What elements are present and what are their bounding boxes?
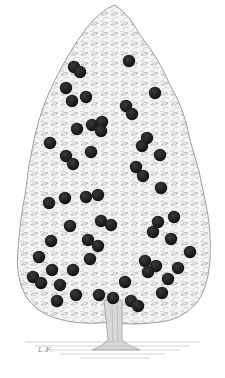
fruit <box>105 219 117 231</box>
fruit <box>136 140 148 152</box>
fruit <box>80 191 92 203</box>
fruit <box>123 55 135 67</box>
fruit <box>66 95 78 107</box>
fruit <box>184 246 196 258</box>
fruit <box>44 137 56 149</box>
fruit <box>119 276 131 288</box>
fruit <box>35 277 47 289</box>
tree-canopy <box>17 5 210 324</box>
fruit <box>70 289 82 301</box>
fruit <box>45 235 57 247</box>
fruit <box>168 211 180 223</box>
fruit <box>147 226 159 238</box>
fruit <box>51 295 63 307</box>
fruit <box>67 158 79 170</box>
fruit <box>33 251 45 263</box>
fruit <box>92 240 104 252</box>
fruit <box>126 108 138 120</box>
fruit <box>162 273 174 285</box>
fruit <box>155 182 167 194</box>
fruit <box>156 287 168 299</box>
fruit <box>139 255 151 267</box>
tree-engraving <box>0 0 225 378</box>
fruit <box>74 66 86 78</box>
fruit <box>85 146 97 158</box>
fruit <box>67 264 79 276</box>
fruit <box>154 149 166 161</box>
fruit <box>84 253 96 265</box>
fruit <box>43 197 55 209</box>
fruit <box>54 279 66 291</box>
artist-signature: L.F. <box>38 346 53 354</box>
fruit <box>60 82 72 94</box>
fruit <box>93 289 105 301</box>
fruit <box>142 266 154 278</box>
fruit <box>172 262 184 274</box>
fruit <box>149 87 161 99</box>
fruit <box>165 233 177 245</box>
fruit <box>132 300 144 312</box>
fruit <box>92 189 104 201</box>
fruit <box>71 123 83 135</box>
fruit <box>64 220 76 232</box>
fruit <box>59 192 71 204</box>
fruit <box>95 125 107 137</box>
fruit <box>107 292 119 304</box>
fruit <box>46 264 58 276</box>
fruit <box>80 91 92 103</box>
fruit <box>137 170 149 182</box>
